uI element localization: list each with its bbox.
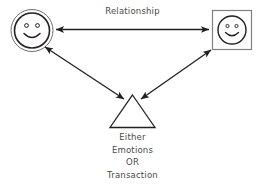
person-circle-inner-ring (15, 13, 50, 48)
triangle-outline (110, 95, 155, 128)
relationship-label: Relationship (0, 6, 265, 16)
connector-right-diagonal-arrow (141, 50, 211, 99)
caption-line-or: OR (0, 156, 265, 169)
diagram-canvas: Relationship Either Emotions OR Transact… (0, 0, 265, 196)
triangle-caption: Either Emotions OR Transaction (0, 131, 265, 181)
connector-left-diagonal-arrow (45, 47, 124, 99)
exchange-triangle (110, 95, 155, 128)
person-square-right (213, 11, 252, 50)
person-square-face-circle (218, 16, 246, 44)
caption-line-transaction: Transaction (0, 169, 265, 182)
caption-line-either: Either (0, 131, 265, 144)
caption-line-emotions: Emotions (0, 144, 265, 157)
